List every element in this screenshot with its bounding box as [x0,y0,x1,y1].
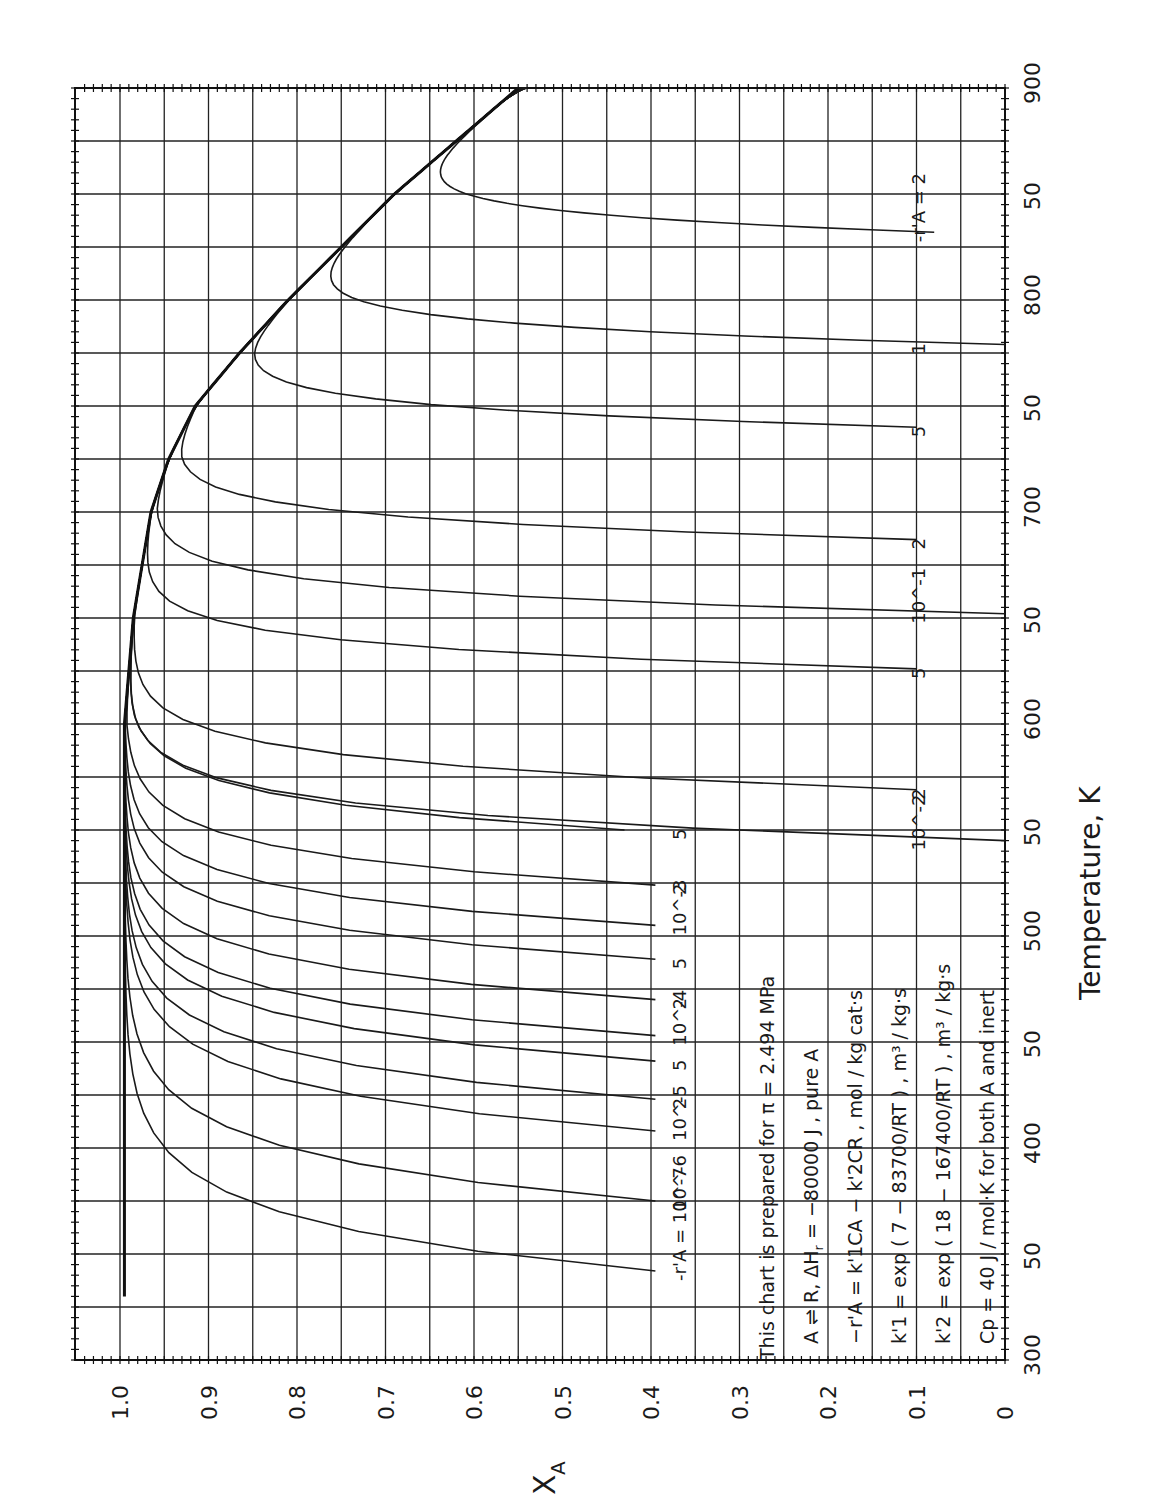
temperature-axis-title: Temperature, K [1074,786,1107,1001]
svg-text:10^-2: 10^-2 [908,795,929,851]
svg-text:1.0: 1.0 [108,1385,133,1420]
svg-text:50: 50 [1020,1242,1045,1270]
svg-text:600: 600 [1020,698,1045,740]
svg-text:500: 500 [1020,910,1045,952]
svg-text:0.2: 0.2 [816,1385,841,1420]
note-line-5: k'2 = exp ( 18 − 167400/RT ) , m³ / kg·s [921,964,965,1360]
svg-text:10^-4: 10^-4 [669,990,690,1046]
svg-text:700: 700 [1020,486,1045,528]
svg-text:0.5: 0.5 [551,1385,576,1420]
svg-text:-r'A = 2: -r'A = 2 [908,173,929,242]
equilibrium-envelope [124,88,518,1296]
svg-text:0.9: 0.9 [197,1385,222,1420]
xa-tick-labels: 00.10.20.30.40.50.60.70.80.91.0 [108,1385,1018,1420]
svg-text:900: 900 [1020,62,1045,104]
temperature-tick-labels: 300504005050050600507005080050900 [1020,62,1045,1376]
svg-text:2: 2 [908,538,929,549]
svg-text:50: 50 [1020,606,1045,634]
svg-text:1: 1 [908,343,929,354]
svg-text:5: 5 [669,958,690,969]
svg-text:0.7: 0.7 [374,1385,399,1420]
svg-text:10^-1: 10^-1 [908,568,929,624]
svg-text:2: 2 [908,788,929,799]
note-line-3: −r'A = k'1CA − k'2CR , mol / kg cat·s [833,964,877,1360]
svg-text:10^-5: 10^-5 [669,1085,690,1141]
svg-text:0: 0 [993,1406,1018,1420]
note-line-1: This chart is prepared for π = 2.494 MPa [745,964,789,1360]
svg-text:5: 5 [669,829,690,840]
svg-text:50: 50 [1020,818,1045,846]
xa-axis-title: X A [527,1461,570,1495]
chart-notes: This chart is prepared for π = 2.494 MPa… [745,964,1009,1360]
svg-text:2: 2 [669,1098,690,1109]
svg-text:A: A [546,1461,570,1475]
svg-text:0.8: 0.8 [285,1385,310,1420]
svg-text:800: 800 [1020,274,1045,316]
note-line-4: k'1 = exp ( 7 − 83700/RT ) , m³ / kg·s [877,964,921,1360]
note-line-2: A ⇌ R, ΔHr = −80000 J , pure A [789,964,833,1360]
svg-text:X: X [527,1474,562,1495]
svg-text:0.6: 0.6 [462,1385,487,1420]
svg-text:5: 5 [669,1060,690,1071]
svg-text:2: 2 [669,884,690,895]
note-line-6: Cp = 40 J / mol·K for both A and inert [965,964,1009,1360]
svg-text:0.1: 0.1 [905,1385,930,1420]
svg-text:5: 5 [908,667,929,678]
svg-text:50: 50 [1020,182,1045,210]
svg-text:50: 50 [1020,1030,1045,1058]
svg-text:50: 50 [1020,394,1045,422]
svg-text:0.3: 0.3 [728,1385,753,1420]
svg-text:400: 400 [1020,1122,1045,1164]
svg-text:10^-6: 10^-6 [669,1155,690,1211]
svg-text:0.4: 0.4 [639,1385,664,1420]
svg-text:2: 2 [669,998,690,1009]
svg-text:5: 5 [908,426,929,437]
svg-text:300: 300 [1020,1334,1045,1376]
